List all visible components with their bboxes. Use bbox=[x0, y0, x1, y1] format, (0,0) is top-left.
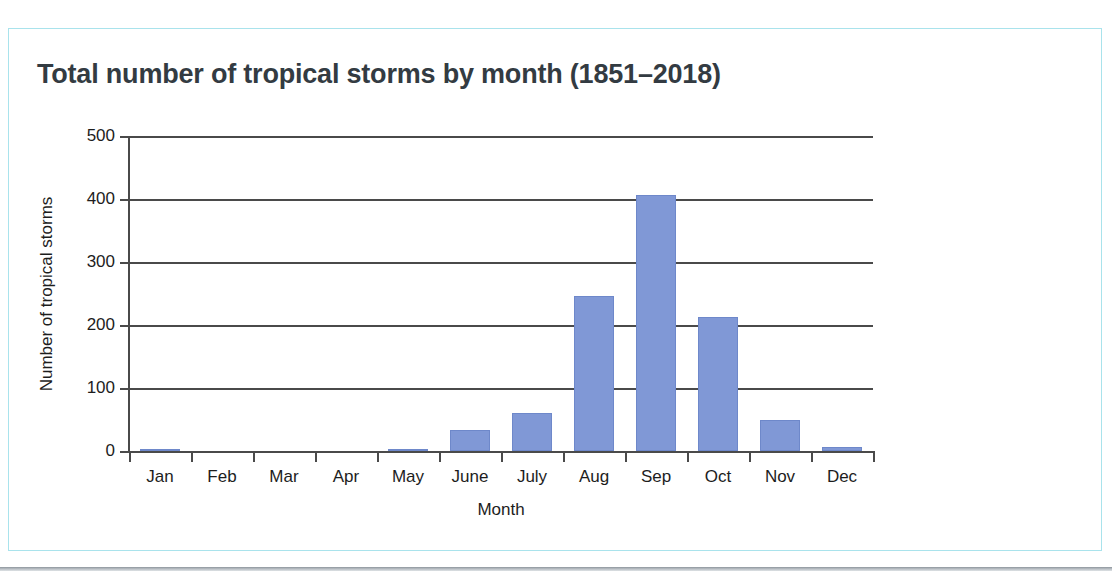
y-tick-label: 100 bbox=[87, 378, 115, 398]
y-tick-mark-200 bbox=[120, 325, 129, 327]
x-tick-mark-6 bbox=[501, 451, 503, 462]
x-tick-mark-3 bbox=[315, 451, 317, 462]
bar-nov bbox=[760, 420, 801, 451]
x-axis-title: Month bbox=[477, 500, 524, 520]
y-tick-label: 300 bbox=[87, 252, 115, 272]
plot-area: 0100200300400500 Number of tropical stor… bbox=[129, 136, 873, 451]
bar-july bbox=[512, 413, 553, 451]
x-tick-label-july: July bbox=[517, 467, 547, 487]
page-bottom-divider bbox=[0, 567, 1112, 571]
x-tick-mark-0 bbox=[129, 451, 131, 462]
y-tick-label: 400 bbox=[87, 189, 115, 209]
y-axis-title: Number of tropical storms bbox=[37, 197, 57, 392]
y-tick-mark-400 bbox=[120, 199, 129, 201]
y-tick-mark-100 bbox=[120, 388, 129, 390]
x-tick-label-june: June bbox=[452, 467, 489, 487]
x-tick-label-nov: Nov bbox=[765, 467, 795, 487]
y-tick-label: 0 bbox=[106, 441, 115, 461]
y-tick-mark-500 bbox=[120, 136, 129, 138]
y-tick-mark-300 bbox=[120, 262, 129, 264]
x-tick-label-jan: Jan bbox=[146, 467, 173, 487]
x-tick-mark-11 bbox=[811, 451, 813, 462]
x-tick-mark-1 bbox=[191, 451, 193, 462]
x-tick-mark-10 bbox=[749, 451, 751, 462]
x-tick-mark-8 bbox=[625, 451, 627, 462]
y-tick-mark-0 bbox=[120, 451, 129, 453]
bar-aug bbox=[574, 296, 615, 451]
y-tick-label: 500 bbox=[87, 126, 115, 146]
bar-jan bbox=[140, 449, 181, 451]
screenshot-stage: Total number of tropical storms by month… bbox=[0, 0, 1112, 576]
chart-card: Total number of tropical storms by month… bbox=[8, 28, 1102, 551]
x-tick-mark-5 bbox=[439, 451, 441, 462]
x-tick-label-may: May bbox=[392, 467, 424, 487]
bar-chart-figure: 0100200300400500 Number of tropical stor… bbox=[9, 29, 1103, 552]
x-tick-mark-2 bbox=[253, 451, 255, 462]
x-tick-mark-end bbox=[873, 451, 875, 462]
bar-series bbox=[129, 136, 873, 451]
x-tick-label-oct: Oct bbox=[705, 467, 731, 487]
bar-dec bbox=[822, 447, 863, 451]
x-tick-mark-9 bbox=[687, 451, 689, 462]
x-tick-label-apr: Apr bbox=[333, 467, 359, 487]
x-tick-mark-4 bbox=[377, 451, 379, 462]
bar-oct bbox=[698, 317, 739, 451]
x-tick-label-feb: Feb bbox=[207, 467, 236, 487]
x-tick-label-aug: Aug bbox=[579, 467, 609, 487]
x-tick-label-mar: Mar bbox=[269, 467, 298, 487]
y-tick-label: 200 bbox=[87, 315, 115, 335]
bar-june bbox=[450, 430, 491, 451]
bar-sep bbox=[636, 195, 677, 451]
bar-may bbox=[388, 449, 429, 451]
x-tick-mark-7 bbox=[563, 451, 565, 462]
x-tick-label-dec: Dec bbox=[827, 467, 857, 487]
x-tick-label-sep: Sep bbox=[641, 467, 671, 487]
